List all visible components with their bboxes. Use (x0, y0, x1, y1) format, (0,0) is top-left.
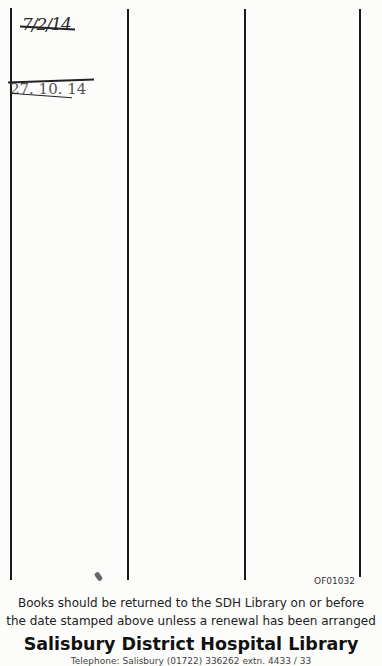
ink-mark (94, 571, 103, 581)
return-notice-line-2: the date stamped above unless a renewal … (0, 614, 382, 628)
handwritten-date-1: 7/2/14 (22, 14, 71, 34)
footer-contact-partial: Telephone: Salisbury (01722) 336262 extn… (0, 656, 382, 666)
form-code: OF01032 (314, 576, 355, 586)
date-column-line-3 (244, 9, 246, 580)
library-name: Salisbury District Hospital Library (0, 634, 382, 654)
date-column-line-4 (359, 9, 361, 577)
date-column-line-2 (127, 9, 129, 580)
return-notice-line-1: Books should be returned to the SDH Libr… (0, 596, 382, 610)
